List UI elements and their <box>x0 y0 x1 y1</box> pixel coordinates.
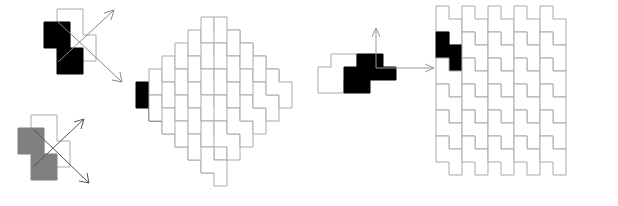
diamond-tiling-svg <box>134 0 314 206</box>
figure-translation-pair <box>318 20 436 110</box>
figure-rectangle-tiling <box>432 0 618 206</box>
reflection-gray-tiles <box>18 115 70 180</box>
figure-reflection-black <box>0 0 150 100</box>
translation-pair-svg <box>318 20 436 110</box>
reflection-gray-svg <box>0 104 110 206</box>
figure-reflection-gray <box>0 104 110 206</box>
figure-canvas <box>0 0 618 206</box>
reflection-black-tiles <box>44 9 96 74</box>
figure-diamond-tiling <box>134 0 314 206</box>
reflection-black-svg <box>0 0 150 100</box>
translation-tiles <box>318 54 396 93</box>
rectangle-tiling-svg <box>432 0 618 206</box>
